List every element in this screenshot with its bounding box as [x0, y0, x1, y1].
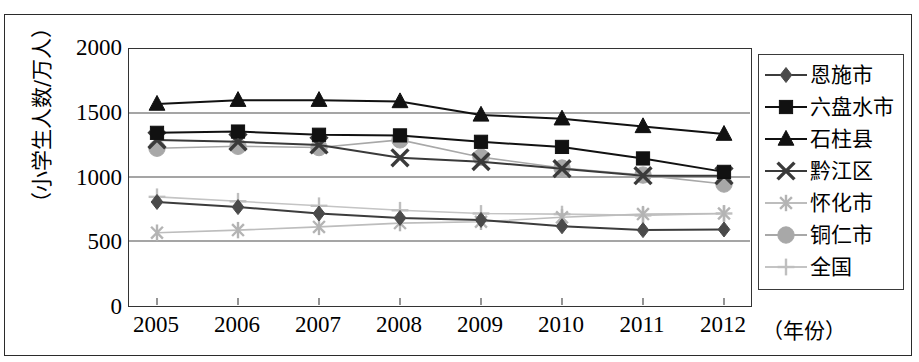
- legend-item-0[interactable]: 恩施市: [763, 59, 903, 91]
- x-axis-tick-label: 2006: [214, 312, 260, 338]
- data-point-marker: [780, 68, 792, 83]
- data-point-marker: [779, 100, 792, 113]
- legend-marker-x-cross-icon: [763, 156, 809, 186]
- chart-figure: （小学生人数/万人） 0500100015002000 200520062007…: [0, 0, 919, 362]
- y-axis-tick-label: 0: [22, 295, 122, 318]
- legend-marker-square-icon: [763, 92, 809, 122]
- data-point-marker: [636, 152, 649, 165]
- legend-item-4[interactable]: 怀化市: [763, 187, 903, 219]
- data-point-marker: [311, 92, 327, 107]
- plot-svg: [129, 49, 750, 305]
- legend-item-2[interactable]: 石柱县: [763, 123, 903, 155]
- legend-marker-diamond-icon: [763, 60, 809, 90]
- x-axis-tick-label: 2005: [133, 312, 179, 338]
- data-point-marker: [392, 93, 408, 108]
- x-axis-title: （年份）: [762, 314, 846, 344]
- data-point-marker: [474, 135, 487, 148]
- data-point-marker: [778, 130, 794, 145]
- legend-marker-asterisk-icon: [763, 188, 809, 218]
- legend-label: 六盘水市: [809, 97, 894, 118]
- data-point-marker: [230, 92, 246, 107]
- data-point-marker: [231, 125, 244, 138]
- legend-item-3[interactable]: 黔江区: [763, 155, 903, 187]
- y-axis-tick-label: 2000: [22, 36, 122, 59]
- data-point-marker: [555, 140, 568, 153]
- chart-legend: 恩施市六盘水市石柱县黔江区怀化市铜仁市全国: [758, 54, 904, 290]
- data-point-marker: [718, 222, 730, 237]
- data-point-marker: [313, 206, 325, 221]
- x-axis-tick-label: 2011: [619, 312, 664, 338]
- legend-label: 恩施市: [809, 65, 873, 86]
- x-axis-tick-label: 2012: [700, 312, 746, 338]
- legend-item-5[interactable]: 铜仁市: [763, 219, 903, 251]
- data-point-marker: [778, 259, 795, 276]
- legend-marker-circle-icon: [763, 220, 809, 250]
- y-axis-tick-label: 1000: [22, 166, 122, 189]
- legend-marker-triangle-icon: [763, 124, 809, 154]
- y-axis-tick-label: 1500: [22, 101, 122, 124]
- data-point-marker: [393, 129, 406, 142]
- x-axis-tick-label: 2008: [376, 312, 422, 338]
- x-axis-tick-label: 2009: [457, 312, 503, 338]
- data-point-marker: [778, 227, 794, 243]
- x-axis-tick-label: 2010: [538, 312, 584, 338]
- legend-marker-plus-icon: [763, 252, 809, 282]
- plot-area: [128, 48, 752, 307]
- legend-label: 全国: [809, 257, 852, 278]
- x-axis-tick-labels: 20052006200720082009201020112012: [128, 312, 752, 352]
- data-point-marker: [312, 128, 325, 141]
- y-axis-tick-label: 500: [22, 230, 122, 253]
- y-axis-tick-labels: 0500100015002000: [18, 0, 122, 362]
- legend-item-1[interactable]: 六盘水市: [763, 91, 903, 123]
- x-axis-tick-label: 2007: [295, 312, 341, 338]
- legend-label: 铜仁市: [809, 225, 873, 246]
- data-point-marker: [150, 126, 163, 139]
- legend-item-6[interactable]: 全国: [763, 251, 903, 283]
- data-point-marker: [149, 140, 165, 156]
- data-point-marker: [717, 165, 730, 178]
- legend-label: 石柱县: [809, 129, 873, 150]
- legend-label: 怀化市: [809, 193, 873, 214]
- legend-label: 黔江区: [809, 161, 873, 182]
- data-point-marker: [637, 223, 649, 238]
